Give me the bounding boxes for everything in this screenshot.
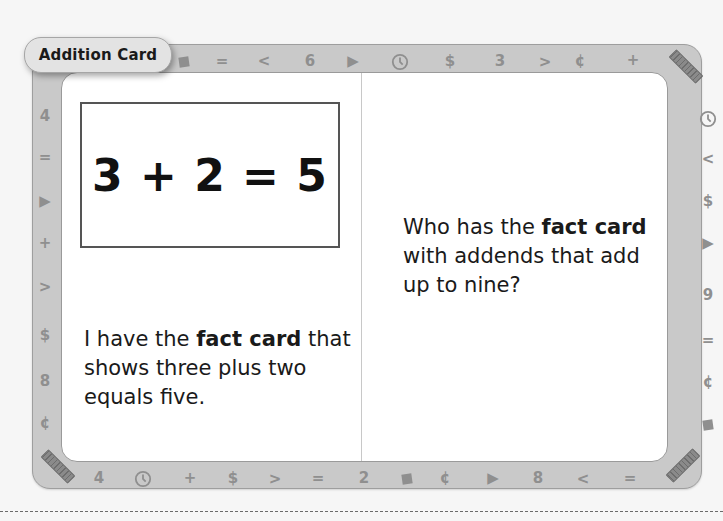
square-icon [698, 414, 718, 434]
triangle-icon: ▶ [483, 468, 503, 488]
clock-icon [390, 51, 410, 71]
dollar-icon: $ [223, 468, 243, 488]
question-bold-text: fact card [542, 215, 647, 239]
triangle-icon: ▶ [698, 233, 718, 253]
cent-icon: ¢ [35, 413, 55, 433]
who-has-question: Who has the fact card with addends that … [403, 213, 663, 300]
clock-icon [698, 108, 718, 128]
fact-equation-box: 3 + 2 = 5 [80, 102, 340, 248]
greater-than-icon: > [35, 277, 55, 297]
greater-than-icon: > [265, 469, 285, 489]
greater-than-icon: > [535, 52, 555, 72]
statement-bold-text: fact card [196, 327, 301, 351]
number-6-icon: 6 [300, 51, 320, 71]
cent-icon: ¢ [570, 51, 590, 71]
card-title: Addition Card [24, 37, 172, 73]
cut-line [0, 511, 723, 512]
less-than-icon: < [254, 51, 274, 71]
number-3-icon: 3 [490, 51, 510, 71]
plus-icon: + [623, 50, 643, 70]
cent-icon: ¢ [435, 468, 455, 488]
cent-icon: ¢ [698, 372, 718, 392]
plus-icon: + [180, 468, 200, 488]
less-than-icon: < [573, 469, 593, 489]
triangle-icon: ▶ [35, 191, 55, 211]
number-9-icon: 9 [698, 285, 718, 305]
less-than-icon: < [698, 149, 718, 169]
equals-icon: = [698, 330, 718, 350]
center-divider [361, 73, 362, 461]
equation-text: 3 + 2 = 5 [92, 150, 328, 201]
equals-icon: = [620, 468, 640, 488]
number-4-icon: 4 [35, 106, 55, 126]
question-text: with addends that add up to nine? [403, 244, 640, 297]
dollar-icon: $ [440, 51, 460, 71]
square-icon [397, 468, 417, 488]
dollar-icon: $ [698, 191, 718, 211]
triangle-icon: ▶ [343, 51, 363, 71]
clock-icon [133, 468, 153, 488]
number-8-icon: 8 [528, 468, 548, 488]
question-text: Who has the [403, 215, 542, 239]
i-have-statement: I have the fact card that shows three pl… [84, 325, 354, 412]
number-4-icon: 4 [89, 468, 109, 488]
number-8-icon: 8 [35, 371, 55, 391]
plus-icon: + [35, 233, 55, 253]
statement-text: I have the [84, 327, 196, 351]
equals-icon: = [35, 147, 55, 167]
number-2-icon: 2 [354, 468, 374, 488]
dollar-icon: $ [35, 325, 55, 345]
equals-icon: = [212, 51, 232, 71]
equals-icon: = [308, 468, 328, 488]
square-icon [174, 51, 194, 71]
